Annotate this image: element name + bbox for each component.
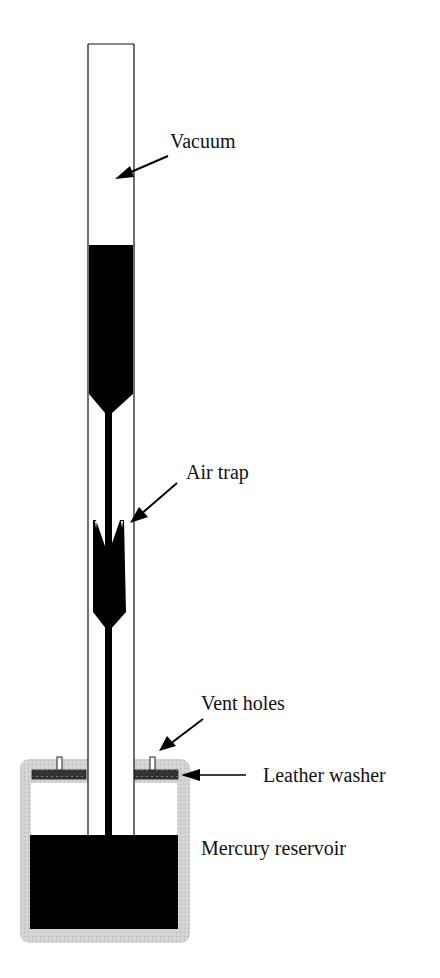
vent-hole-right bbox=[150, 757, 155, 770]
arrow-vent-holes bbox=[159, 719, 203, 751]
reservoir-mercury bbox=[30, 835, 178, 929]
arrow-leather-washer bbox=[181, 769, 246, 781]
mercury-column bbox=[89, 245, 133, 413]
label-mercury-reservoir: Mercury reservoir bbox=[201, 838, 346, 858]
leather-washer-left bbox=[32, 770, 86, 779]
arrow-air-trap bbox=[130, 483, 177, 523]
label-leather-washer: Leather washer bbox=[263, 765, 386, 785]
label-air-trap: Air trap bbox=[186, 462, 249, 482]
label-vent-holes: Vent holes bbox=[201, 693, 285, 713]
label-vacuum: Vacuum bbox=[170, 131, 236, 151]
leather-washer-right bbox=[130, 770, 178, 779]
vent-hole-left bbox=[57, 757, 62, 770]
